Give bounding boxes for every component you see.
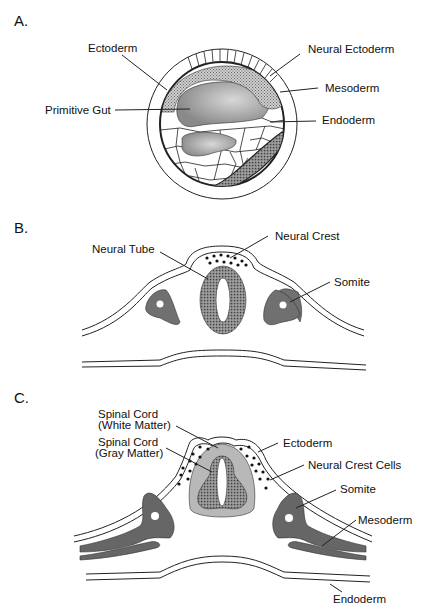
embryology-figure: A.	[0, 0, 421, 606]
endoderm-layer-c	[86, 556, 370, 582]
label-neural-crest: Neural Crest	[275, 230, 340, 242]
label-mesoderm: Mesoderm	[325, 82, 379, 94]
label-neural-ectoderm: Neural Ectoderm	[308, 43, 394, 55]
somite-left-c-cavity	[151, 512, 159, 520]
panel-a-label: A.	[14, 12, 28, 29]
label-ectoderm-c: Ectoderm	[283, 437, 332, 449]
label-ectoderm: Ectoderm	[88, 42, 137, 54]
label-somite-c: Somite	[340, 483, 376, 495]
neural-tube-lumen	[216, 278, 230, 322]
label-somite-b: Somite	[334, 276, 370, 288]
label-primitive-gut: Primitive Gut	[45, 104, 112, 116]
panel-c-label: C.	[14, 389, 29, 406]
panel-b-label: B.	[14, 219, 28, 236]
panel-a: A.	[14, 12, 394, 199]
somite-left	[146, 290, 180, 325]
panel-b: B.	[14, 219, 370, 370]
somite-left-c	[80, 493, 174, 552]
label-mesoderm-c: Mesoderm	[358, 514, 412, 526]
central-canal	[217, 458, 227, 506]
label-gray-matter-2: (Gray Matter)	[95, 447, 164, 459]
somite-right-c-cavity	[285, 514, 293, 522]
label-white-matter-2: (White Matter)	[98, 419, 171, 431]
endoderm-layer	[82, 350, 366, 370]
somite-right-cavity	[280, 302, 287, 309]
label-neural-crest-cells: Neural Crest Cells	[308, 459, 402, 471]
label-neural-tube: Neural Tube	[92, 243, 155, 255]
label-endoderm-c: Endoderm	[333, 593, 386, 605]
panel-c: C.	[14, 389, 412, 605]
label-endoderm: Endoderm	[322, 114, 375, 126]
somite-left-cavity	[157, 301, 164, 308]
